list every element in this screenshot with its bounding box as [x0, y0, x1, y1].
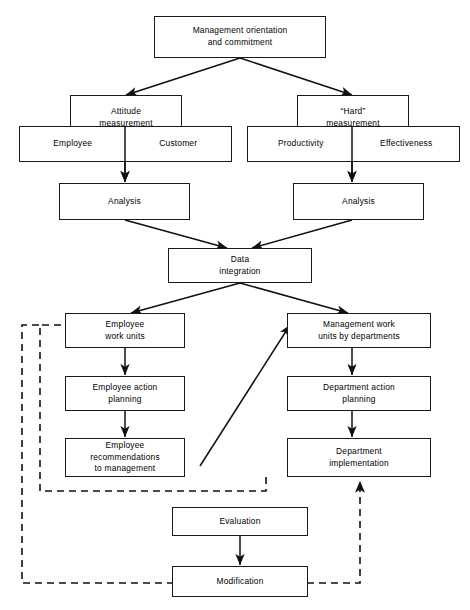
- edge-mgmt-to-hard: [240, 58, 352, 95]
- node-department-action-planning-label: Department action planning: [323, 382, 395, 405]
- node-effectiveness[interactable]: Effectiveness: [354, 127, 460, 161]
- edge-dashed-modification-to-implementation: [307, 481, 360, 583]
- node-employee-recommendations-label: Employee recommendations to management: [90, 440, 160, 475]
- node-analysis-left[interactable]: Analysis: [59, 183, 190, 220]
- node-employee-recommendations[interactable]: Employee recommendations to management: [65, 438, 185, 477]
- node-management-orientation[interactable]: Management orientation and commitment: [154, 16, 326, 58]
- node-employee-action-planning-label: Employee action planning: [93, 382, 158, 405]
- node-analysis-right-label: Analysis: [342, 196, 375, 208]
- node-data-integration-label: Data integration: [219, 254, 260, 277]
- node-evaluation-label: Evaluation: [219, 516, 260, 528]
- node-department-implementation-label: Department implementation: [329, 446, 389, 469]
- edge-recs-to-mgmt-units: [200, 325, 290, 466]
- node-analysis-right[interactable]: Analysis: [293, 183, 424, 220]
- flowchart-diagram: Management orientation and commitment At…: [0, 0, 470, 610]
- node-department-implementation[interactable]: Department implementation: [287, 438, 431, 477]
- node-customer-label: Customer: [159, 138, 197, 150]
- node-customer[interactable]: Customer: [126, 127, 232, 161]
- node-modification-label: Modification: [216, 576, 263, 588]
- node-data-integration[interactable]: Data integration: [168, 248, 312, 283]
- edge-mgmt-to-attitude: [126, 58, 240, 95]
- node-employee-action-planning[interactable]: Employee action planning: [65, 376, 185, 411]
- node-department-action-planning[interactable]: Department action planning: [287, 376, 431, 411]
- node-employee-label: Employee: [53, 138, 92, 150]
- edge-data-to-employee-units: [131, 283, 240, 313]
- node-management-orientation-label: Management orientation and commitment: [193, 25, 288, 48]
- node-productivity-label: Productivity: [278, 138, 324, 150]
- node-hard-subboxes: Productivity Effectiveness: [247, 126, 460, 162]
- node-analysis-left-label: Analysis: [108, 196, 141, 208]
- edge-analysis-left-to-data: [125, 220, 227, 248]
- node-employee-work-units[interactable]: Employee work units: [65, 313, 185, 348]
- node-attitude-subboxes: Employee Customer: [19, 126, 232, 162]
- edge-data-to-mgmt-units: [240, 283, 348, 313]
- node-productivity[interactable]: Productivity: [248, 127, 354, 161]
- edge-analysis-right-to-data: [252, 220, 352, 248]
- node-management-work-units-label: Management work units by departments: [318, 319, 400, 342]
- node-effectiveness-label: Effectiveness: [380, 138, 432, 150]
- node-management-work-units[interactable]: Management work units by departments: [287, 313, 431, 348]
- node-employee[interactable]: Employee: [20, 127, 126, 161]
- node-modification[interactable]: Modification: [172, 566, 308, 597]
- node-employee-work-units-label: Employee work units: [105, 319, 145, 342]
- node-evaluation[interactable]: Evaluation: [172, 507, 308, 536]
